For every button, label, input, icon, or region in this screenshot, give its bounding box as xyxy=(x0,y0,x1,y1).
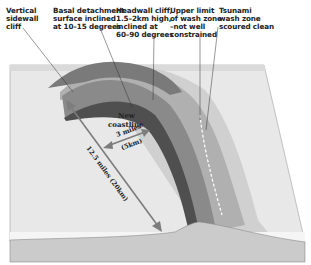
label-tsunami-wash-zone: Tsunami wash zone scoured clean xyxy=(219,7,274,31)
diagram-canvas: New coastline 3 miles (5km) 12.5 miles (… xyxy=(0,0,311,265)
new-coastline-label-1: New xyxy=(118,111,136,120)
label-headwall-cliff: Headwall cliff, 1.5–2km high, inclined a… xyxy=(116,7,174,39)
landslide-block-diagram: New coastline 3 miles (5km) 12.5 miles (… xyxy=(0,0,311,265)
label-vertical-sidewall: Vertical sidewall cliff xyxy=(6,7,38,31)
label-basal-detachment: Basal detachment surface inclined at 10–… xyxy=(53,7,124,31)
label-upper-limit: Upper limit of wash zone –not well const… xyxy=(170,7,222,39)
